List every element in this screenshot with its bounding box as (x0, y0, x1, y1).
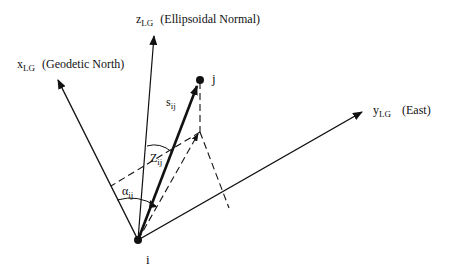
distance-vector-arrow (138, 86, 197, 240)
y-axis-arrow (138, 112, 362, 240)
point-j-label: j (212, 72, 216, 85)
diagram-canvas (0, 0, 453, 276)
distance-label: sij (166, 96, 176, 108)
point-j (196, 76, 204, 84)
point-i (134, 236, 142, 244)
x-axis-arrow (58, 80, 138, 240)
z-axis-label: zLG (Ellipsoidal Normal) (136, 13, 260, 25)
horizontal-projection-dashed-arrow (138, 134, 198, 240)
zenith-angle-label: Zij (150, 152, 162, 164)
azimuth-angle-label: αij (122, 185, 133, 197)
point-i-label: i (146, 253, 150, 266)
y-axis-label: yLG (East) (373, 104, 431, 116)
x-axis-label: xLG (Geodetic North) (17, 58, 124, 70)
z-axis-arrow (138, 36, 154, 240)
